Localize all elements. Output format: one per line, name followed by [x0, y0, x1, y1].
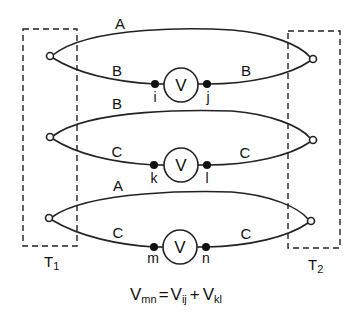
loop-3: V m n A C C	[46, 177, 315, 266]
voltmeter-label-1: V	[175, 76, 187, 95]
loop-2: V k l B C C	[47, 95, 317, 186]
thermocouple-diagram: V i j A B B V k l B C C V	[0, 0, 358, 320]
wire-label-lower-right-1: B	[241, 62, 251, 79]
loop-1: V i j A B B	[47, 15, 317, 105]
wire-label-lower-right-3: C	[241, 225, 252, 242]
node-label-n: n	[202, 250, 210, 266]
wire-label-upper-1: A	[115, 15, 125, 32]
node-label-j: j	[205, 89, 209, 105]
wire-upper-3	[52, 192, 308, 219]
wire-lower-left-3	[52, 220, 154, 247]
eq-equals: =	[159, 285, 169, 304]
node-l	[203, 161, 211, 169]
eq-term1-sub: ij	[182, 293, 187, 305]
terminal-right-3	[308, 218, 315, 225]
eq-term2-sub: kl	[214, 293, 222, 305]
terminal-left-3	[46, 215, 53, 222]
voltmeter-label-2: V	[175, 156, 187, 175]
wire-lower-right-2	[207, 142, 310, 165]
node-label-k: k	[151, 170, 159, 186]
wire-label-upper-3: A	[113, 177, 123, 194]
terminal-right-1	[310, 56, 317, 63]
wire-label-lower-left-3: C	[113, 224, 124, 241]
node-j	[203, 80, 211, 88]
terminal-right-2	[310, 137, 317, 144]
wire-upper-2	[53, 111, 310, 138]
wire-label-lower-right-2: C	[240, 144, 251, 161]
wire-label-lower-left-2: C	[112, 143, 123, 160]
terminal-left-2	[47, 134, 54, 141]
eq-term1: V	[171, 285, 183, 304]
wire-lower-right-1	[207, 61, 310, 84]
wire-lower-left-2	[53, 139, 154, 165]
eq-term2: V	[203, 285, 215, 304]
terminal-label-t1-main: T	[44, 253, 53, 270]
wire-upper-1	[53, 29, 310, 57]
eq-plus: +	[190, 285, 200, 304]
wire-label-lower-left-1: B	[112, 62, 122, 79]
terminal-left-1	[47, 53, 54, 60]
wire-lower-right-3	[206, 223, 308, 247]
terminal-label-t2-main: T	[308, 256, 317, 273]
node-label-m: m	[147, 250, 159, 266]
terminal-label-t1-sub: 1	[53, 260, 59, 272]
eq-lhs-sub: mn	[141, 293, 156, 305]
terminal-label-t2-sub: 2	[317, 263, 323, 275]
equation: Vmn=Vij+Vkl	[130, 285, 222, 305]
node-label-i: i	[153, 89, 156, 105]
terminal-label-t1: T1	[44, 253, 59, 272]
node-i	[151, 80, 159, 88]
node-label-l: l	[205, 170, 208, 186]
voltmeter-label-3: V	[174, 238, 186, 257]
wire-lower-left-1	[53, 58, 155, 84]
node-k	[150, 161, 158, 169]
terminal-label-t2: T2	[308, 256, 323, 275]
eq-lhs: V	[130, 285, 142, 304]
wire-label-upper-2: B	[112, 95, 122, 112]
